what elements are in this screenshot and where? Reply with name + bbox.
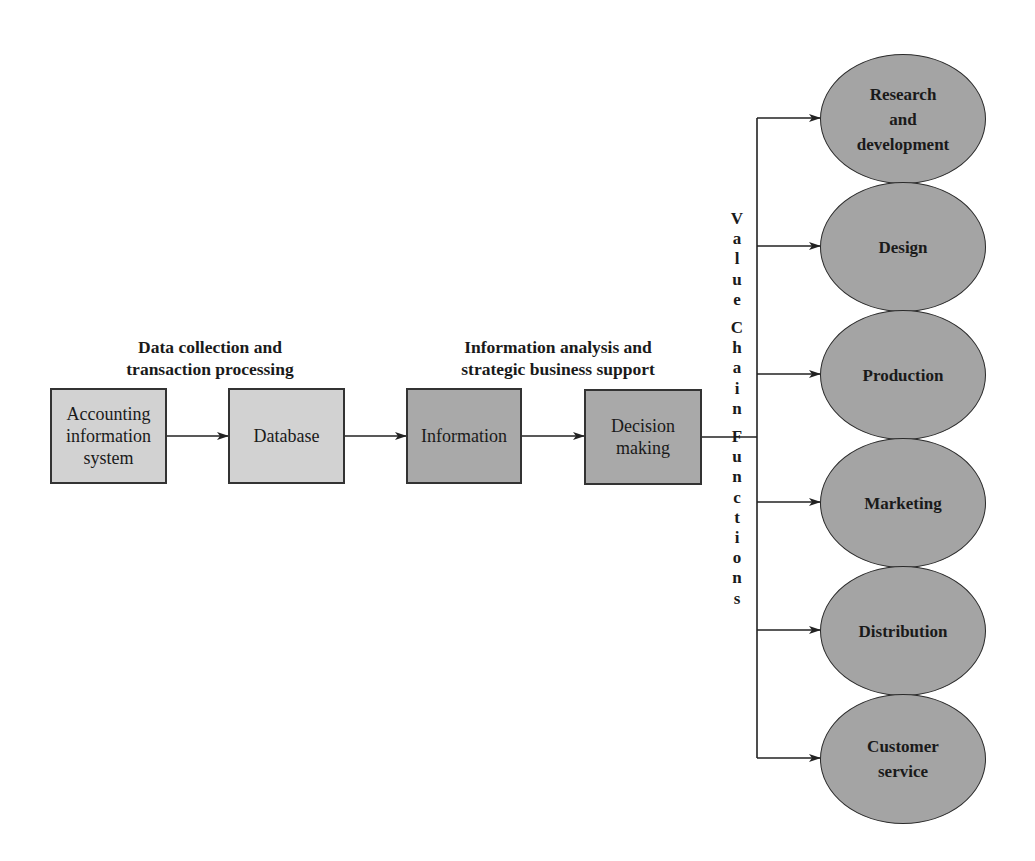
ellipse-production: Production (820, 310, 986, 440)
ellipse-customer-service: Customer service (820, 694, 986, 824)
box-information: Information (406, 388, 522, 484)
heading-information-analysis: Information analysis and strategic busin… (438, 336, 678, 380)
heading-data-collection: Data collection and transaction processi… (120, 336, 300, 380)
value-chain-functions-label: V a l u e C h a i n F u n c t i o n s (727, 209, 747, 609)
box-accounting-information-system: Accounting information system (50, 388, 167, 484)
box-database: Database (228, 388, 345, 484)
ellipse-marketing: Marketing (820, 438, 986, 568)
ellipse-research-and-development: Research and development (820, 54, 986, 184)
ellipse-design: Design (820, 182, 986, 312)
ellipse-distribution: Distribution (820, 566, 986, 696)
box-decision-making: Decision making (584, 389, 702, 485)
